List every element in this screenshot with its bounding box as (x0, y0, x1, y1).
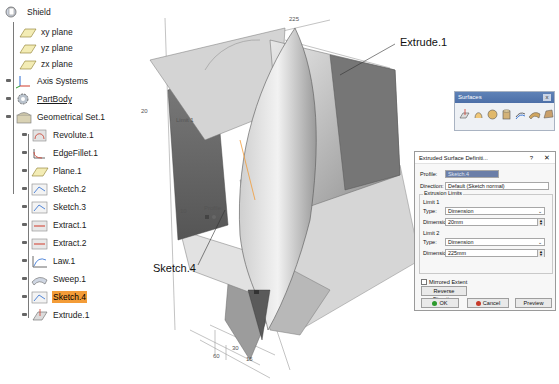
dimension-top: 225 (289, 16, 299, 22)
expand-pin-icon[interactable] (22, 168, 29, 173)
sketch-icon (30, 290, 50, 305)
sketch-icon (30, 200, 50, 215)
chevron-down-icon: ⌄ (538, 208, 542, 215)
limit1-title: Limit 1 (423, 197, 439, 206)
toolbar-title[interactable]: Surfaces (455, 92, 554, 103)
tree-item-sketch2[interactable]: Sketch.2 (30, 181, 87, 197)
cancel-button[interactable]: Cancel (467, 298, 509, 308)
preview-button[interactable]: Preview (515, 298, 552, 308)
limit1-dimension-label: Dimension: (423, 219, 445, 225)
plane-icon (18, 57, 38, 72)
tree-item-zx-plane[interactable]: zx plane (18, 56, 74, 72)
sweep-surface-icon[interactable] (528, 107, 541, 120)
tree-item-law1[interactable]: Law.1 (30, 253, 76, 269)
tree-item-xy-plane[interactable]: xy plane (18, 24, 74, 40)
sweep-icon (30, 272, 50, 287)
geometrical-set-icon (14, 110, 34, 125)
expand-pin-icon[interactable] (22, 204, 29, 209)
fill-surface-icon[interactable] (542, 107, 555, 120)
tree-item-plane1[interactable]: Plane.1 (30, 163, 83, 179)
reverse-direction-button[interactable]: Reverse Direction (421, 286, 467, 296)
limit1-type-label: Type: (423, 208, 445, 214)
expand-pin-icon[interactable] (22, 132, 29, 137)
offset-surface-icon[interactable] (514, 107, 527, 120)
expand-pin-icon[interactable] (22, 150, 29, 155)
limit2-type-label: Type: (423, 239, 445, 245)
expand-pin-icon[interactable] (22, 222, 29, 227)
limit-label: Limit 1 (176, 117, 194, 123)
direction-field[interactable]: Default (Sketch normal) (445, 182, 549, 190)
expand-pin-icon[interactable] (22, 276, 29, 281)
spinner-icon[interactable]: ▲▼ (537, 250, 544, 257)
extract-icon (30, 236, 50, 251)
extrude-callout: Extrude.1 (400, 36, 447, 48)
ok-button[interactable]: OK (421, 298, 459, 308)
dimension-left: 20 (141, 108, 148, 114)
law-icon (30, 254, 50, 269)
limit2-dimension-label: Dimension: (423, 250, 445, 256)
dimension-d3: 15 (246, 356, 253, 362)
tree-root-shield[interactable]: Shield (4, 4, 52, 20)
plane-icon (30, 164, 50, 179)
cylinder-surface-icon[interactable] (500, 107, 513, 120)
dialog-title-bar[interactable]: Extruded Surface Definiti... ? ✕ (415, 152, 555, 164)
tree-item-extract2[interactable]: Extract.2 (30, 235, 88, 251)
profile-field[interactable]: Sketch.4 (445, 170, 499, 178)
chevron-down-icon: ⌄ (538, 239, 542, 246)
tree-item-geometrical-set[interactable]: Geometrical Set.1 (14, 109, 106, 125)
specification-tree: Shield xy plane yz plane zx plane Axis S… (0, 0, 140, 330)
revolve-surface-icon[interactable] (472, 107, 485, 120)
profile-label: Profile: (420, 171, 445, 177)
expand-pin-icon[interactable] (6, 96, 13, 101)
collapse-pin-icon[interactable] (6, 114, 13, 119)
expand-pin-icon[interactable] (6, 78, 13, 83)
plane-icon (18, 41, 38, 56)
sketch-callout: Sketch.4 (153, 262, 196, 274)
tree-item-extract1[interactable]: Extract.1 (30, 217, 88, 233)
document-tree-icon (4, 5, 24, 20)
axis-system-icon (14, 74, 34, 89)
spinner-icon[interactable]: ▲▼ (537, 219, 544, 226)
tree-item-yz-plane[interactable]: yz plane (18, 40, 74, 56)
tree-connector (13, 22, 14, 194)
tree-item-sketch4[interactable]: Sketch.4 (30, 289, 87, 305)
dimension-d1: 60 (213, 353, 220, 359)
mirrored-extent-checkbox[interactable]: Mirrored Extent (421, 277, 467, 286)
surfaces-toolbar[interactable]: Surfaces x (454, 91, 555, 131)
extrusion-limits-title: Extrusion Limits (423, 190, 463, 196)
extruded-surface-definition-dialog[interactable]: Extruded Surface Definiti... ? ✕ Profile… (414, 151, 556, 311)
limit1-dimension-input[interactable]: 20mm ▲▼ (445, 218, 545, 226)
tree-item-edgefillet[interactable]: EdgeFillet.1 (30, 145, 99, 161)
limit2-title: Limit 2 (423, 228, 439, 237)
dimension-angle: 10 (180, 208, 187, 214)
direction-label: Direction: (420, 183, 445, 189)
close-button[interactable]: ✕ (544, 152, 550, 164)
limit1-type-dropdown[interactable]: Dimension ⌄ (445, 207, 545, 215)
tree-item-axis-systems[interactable]: Axis Systems (14, 73, 89, 89)
plane-icon (18, 25, 38, 40)
toolbar-close-button[interactable]: x (543, 94, 551, 101)
ok-icon (432, 301, 437, 306)
sketch-icon (30, 182, 50, 197)
expand-pin-icon[interactable] (22, 258, 29, 263)
extract-icon (30, 218, 50, 233)
expand-pin-icon[interactable] (22, 240, 29, 245)
expand-pin-icon[interactable] (22, 294, 29, 299)
expand-pin-icon[interactable] (22, 312, 29, 317)
checkbox[interactable] (421, 279, 427, 285)
dialog-title: Extruded Surface Definiti... (419, 155, 488, 161)
tree-item-sketch3[interactable]: Sketch.3 (30, 199, 87, 215)
extrude-surface-icon[interactable] (458, 107, 471, 120)
sphere-surface-icon[interactable] (486, 107, 499, 120)
help-button[interactable]: ? (530, 152, 533, 164)
limit2-dimension-input[interactable]: 225mm ▲▼ (445, 249, 545, 257)
tree-item-extrude1[interactable]: Extrude.1 (30, 307, 90, 323)
tree-item-partbody[interactable]: PartBody (14, 91, 73, 107)
tree-item-revolute[interactable]: Revolute.1 (30, 127, 95, 143)
extrude-icon (30, 308, 50, 323)
limit2-type-dropdown[interactable]: Dimension ⌄ (445, 238, 545, 246)
dimension-d2: 30 (232, 345, 239, 351)
tree-item-sweep1[interactable]: Sweep.1 (30, 271, 87, 287)
cancel-icon (476, 301, 481, 306)
expand-pin-icon[interactable] (22, 186, 29, 191)
